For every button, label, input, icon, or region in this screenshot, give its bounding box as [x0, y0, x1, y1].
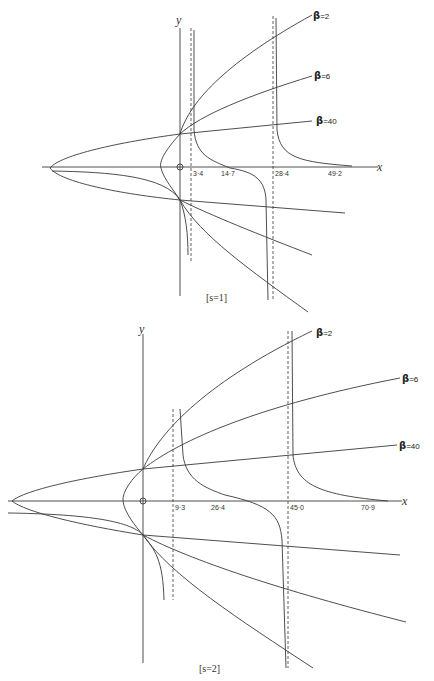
branch-asym2-upper	[292, 331, 388, 501]
beta-symbol: β	[316, 115, 323, 126]
y-axis-label: y	[175, 13, 182, 27]
beta-value: =6	[409, 375, 419, 384]
beta-label-6: β=6	[402, 373, 419, 384]
beta-6-curve-upper	[180, 76, 312, 134]
beta-value: =40	[323, 117, 337, 126]
branch-left-curve	[180, 200, 188, 255]
beta-2-curve-lower	[180, 200, 308, 312]
y-axis-label: y	[138, 322, 145, 336]
beta-value: =2	[323, 329, 333, 338]
beta-symbol: β	[402, 373, 409, 384]
tick-label: 26·4	[211, 504, 225, 511]
beta-symbol: β	[313, 10, 320, 21]
beta-2-curve-upper	[143, 331, 312, 469]
lower-branch-curve	[52, 171, 180, 200]
tick-label: 14·7	[221, 170, 235, 177]
x-axis-label: x	[401, 494, 408, 508]
tick-label: 70·9	[361, 504, 375, 511]
beta-40-curve-upper	[143, 445, 397, 469]
tick-label: 49·2	[328, 170, 342, 177]
tick-label: 45·0	[290, 504, 304, 511]
branch-left-curve	[143, 535, 164, 600]
beta-symbol: β	[316, 327, 323, 338]
beta-value: =6	[321, 72, 331, 81]
beta-label-40: β=40	[399, 440, 420, 451]
diagram-s1: x y 3·4 14·7 28·4 49·2 β=2 β=6 β=40 [s=1…	[42, 10, 383, 312]
beta-label-2: β=2	[313, 10, 330, 21]
caption-s2: [s=2]	[199, 663, 220, 674]
beta-2-curve-upper	[180, 15, 312, 134]
beta-value: =40	[406, 442, 420, 451]
beta-6-curve-lower	[143, 535, 406, 622]
beta-6-curve-upper	[143, 378, 400, 469]
diagram-canvas: x y 3·4 14·7 28·4 49·2 β=2 β=6 β=40 [s=1…	[0, 0, 434, 681]
tick-label: 3·4	[193, 170, 203, 177]
tick-label: 28·4	[275, 170, 289, 177]
beta-label-6: β=6	[314, 70, 331, 81]
beta-6-curve-lower	[180, 200, 312, 255]
beta-label-40: β=40	[316, 115, 337, 126]
beta-40-curve-upper	[180, 121, 312, 134]
beta-40-curve-lower	[143, 535, 400, 555]
x-axis-label: x	[376, 160, 383, 174]
beta-symbol: β	[314, 70, 321, 81]
beta-symbol: β	[399, 440, 406, 451]
branch-asym2-upper	[276, 18, 352, 166]
beta-2-curve-lower	[143, 535, 313, 668]
beta-value: =2	[320, 12, 330, 21]
diagram-s2: x y 9·3 26·4 45·0 70·9 β=2 β=6 β=40 [s=2…	[8, 322, 420, 674]
caption-s1: [s=1]	[206, 292, 227, 303]
tick-label: 9·3	[175, 504, 185, 511]
branch-asym1-upper	[194, 30, 268, 300]
branch-asym1-upper	[180, 409, 286, 668]
beta-label-2: β=2	[316, 327, 333, 338]
